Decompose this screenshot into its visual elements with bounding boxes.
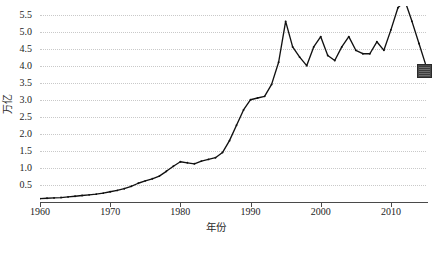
x-tick-label: 2000 [301, 206, 341, 217]
y-tick-label: 1.5 [2, 146, 32, 156]
x-tick-label: 1970 [90, 206, 130, 217]
y-tick-label: 2.0 [2, 129, 32, 139]
y-tick-label: 3.5 [2, 78, 32, 88]
x-tick-label: 1990 [231, 206, 271, 217]
y-tick-label: 1.0 [2, 163, 32, 173]
x-axis-line [40, 202, 428, 203]
y-tick-label: 3.0 [2, 95, 32, 105]
end-value-marker-fill [419, 66, 430, 76]
plot-area [40, 6, 426, 202]
y-tick-label: 4.5 [2, 44, 32, 54]
y-tick-label: 5.5 [2, 10, 32, 20]
y-tick-label: 5.0 [2, 27, 32, 37]
series-line-总量 [40, 6, 426, 202]
y-tick-label: 2.5 [2, 112, 32, 122]
y-tick-label: 0.5 [2, 180, 32, 190]
x-tick-label: 1980 [160, 206, 200, 217]
y-tick-label: 4.0 [2, 61, 32, 71]
x-tick-label: 1960 [20, 206, 60, 217]
x-axis-title: 年份 [0, 219, 431, 234]
end-value-marker [417, 64, 432, 78]
x-tick-label: 2010 [371, 206, 411, 217]
